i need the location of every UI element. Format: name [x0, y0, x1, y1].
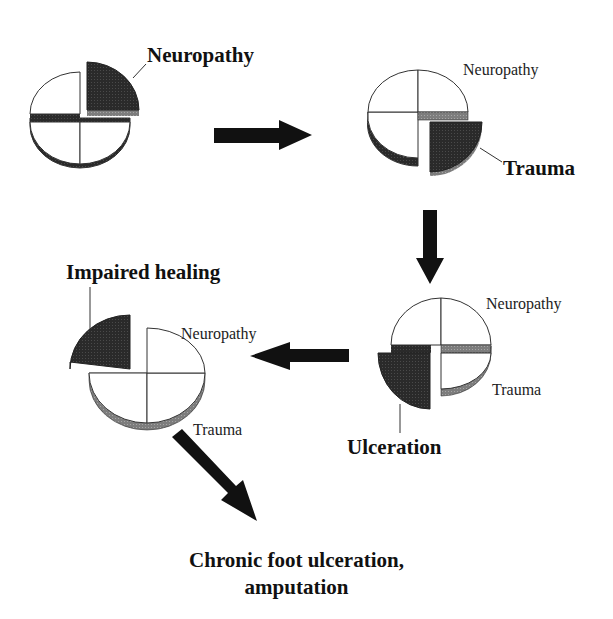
pie-segment-bottom-left: [30, 122, 80, 164]
arrow-left-icon: [250, 342, 349, 370]
label-ulceration-highlight: Ulceration: [347, 437, 441, 458]
diabetic-foot-pathway-diagram: Neuropathy Neuropathy Trauma Neuropathy …: [0, 0, 613, 619]
pie-segment-bottom-left: [89, 373, 147, 423]
label-neuropathy: Neuropathy: [463, 62, 539, 78]
pie-stage-4: [70, 287, 205, 430]
pie-segment-top-right-highlight: [87, 62, 139, 110]
outcome-line-2: amputation: [0, 574, 603, 601]
pie-segment-top-left: [30, 72, 80, 114]
pie-edge-band: [441, 345, 491, 353]
pie-segment-top-left: [391, 298, 441, 345]
pie-edge-band: [418, 112, 468, 120]
outcome-caption: Chronic foot ulceration, amputation: [0, 547, 603, 601]
arrow-right-icon: [214, 120, 312, 150]
label-trauma: Trauma: [193, 422, 242, 438]
pie-exploded-edge: [391, 345, 431, 353]
arrow-diagonal-icon: [172, 429, 257, 521]
pie-exploded-edge: [87, 110, 139, 116]
pie-segment-top-left-highlight: [70, 315, 130, 369]
leader-line: [480, 148, 502, 162]
pie-segment-top-right: [441, 298, 491, 345]
pie-segment-bottom-right-highlight: [430, 122, 482, 172]
pie-stage-1: [30, 62, 146, 168]
pie-segment-bottom-left: [368, 112, 418, 158]
pie-edge-band: [30, 114, 80, 122]
arrow-down-icon: [416, 210, 444, 284]
label-trauma: Trauma: [492, 382, 541, 398]
pie-segment-bottom-right: [147, 373, 205, 423]
label-neuropathy: Neuropathy: [486, 296, 562, 312]
label-neuropathy-highlight: Neuropathy: [147, 45, 254, 66]
outcome-line-1: Chronic foot ulceration,: [0, 547, 603, 574]
label-trauma-highlight: Trauma: [503, 158, 575, 179]
label-impaired-healing-highlight: Impaired healing: [66, 262, 220, 283]
label-neuropathy: Neuropathy: [181, 326, 257, 342]
pie-segment-top-left: [368, 70, 418, 112]
pie-segment-bottom-right: [441, 353, 491, 389]
pie-stage-2: [367, 70, 502, 176]
pie-segment-top-right: [418, 70, 468, 112]
pie-segment-bottom-left-highlight: [378, 353, 430, 409]
leader-line: [133, 64, 146, 78]
pie-stage-3: [378, 298, 491, 433]
pie-segment-bottom-right: [80, 122, 130, 164]
